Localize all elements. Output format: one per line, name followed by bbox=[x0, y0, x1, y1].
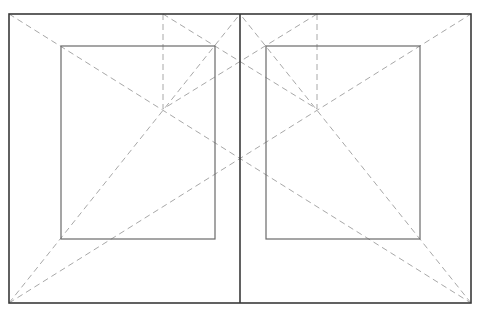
page-layout-diagram bbox=[0, 0, 482, 313]
left-page-diagonal bbox=[9, 14, 240, 303]
right-page-diagonal bbox=[240, 14, 471, 303]
